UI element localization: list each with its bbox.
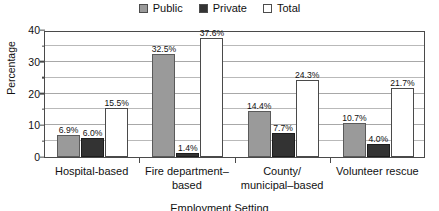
- legend-swatch-private-icon: [199, 4, 208, 13]
- bar-total: 21.7%: [391, 88, 414, 157]
- bar-chart: Public Private Total Percentage 01020304…: [0, 0, 439, 211]
- chart-legend: Public Private Total: [0, 3, 439, 14]
- bar-value-label: 1.4%: [178, 144, 198, 153]
- legend-label-total: Total: [277, 3, 300, 14]
- bar-value-label: 6.9%: [59, 126, 79, 135]
- legend-swatch-total-icon: [263, 4, 272, 13]
- legend-swatch-public-icon: [139, 4, 148, 13]
- bar-public: 10.7%: [343, 123, 366, 157]
- plot-area: 010203040 6.9%6.0%15.5%32.5%1.4%37.6%14.…: [44, 31, 425, 158]
- bar-total: 37.6%: [200, 38, 223, 157]
- bar-value-label: 32.5%: [152, 45, 176, 54]
- bars-layer: 6.9%6.0%15.5%32.5%1.4%37.6%14.4%7.7%24.3…: [45, 32, 424, 157]
- y-tick-mark: [40, 29, 45, 30]
- legend-item-total: Total: [263, 3, 300, 14]
- legend-label-private: Private: [213, 3, 247, 14]
- x-axis-title: Employment Setting: [0, 202, 439, 211]
- x-tick-mark: [139, 158, 140, 163]
- legend-item-public: Public: [139, 3, 183, 14]
- bar-value-label: 14.4%: [247, 102, 271, 111]
- x-axis-category-label: County/municipal–based: [235, 165, 330, 192]
- bar-value-label: 15.5%: [104, 99, 128, 108]
- x-axis-category-label-line: Hospital-based: [44, 165, 139, 179]
- x-tick-mark: [330, 158, 331, 163]
- bar-private: 4.0%: [367, 144, 390, 157]
- bar-private: 6.0%: [81, 138, 104, 157]
- x-axis-category-label-line: County/: [235, 165, 330, 179]
- bar-private: 1.4%: [176, 153, 199, 157]
- y-tick-label: 40: [28, 24, 40, 36]
- bar-value-label: 24.3%: [295, 71, 319, 80]
- y-tick-label: 30: [28, 56, 40, 68]
- x-axis-category-label: Fire department–based: [139, 165, 234, 192]
- x-axis-category-label: Volunteer rescue: [330, 165, 425, 179]
- bar-value-label: 7.7%: [273, 124, 293, 133]
- x-tick-mark: [235, 158, 236, 163]
- y-axis-title: Percentage: [5, 23, 17, 113]
- bar-public: 6.9%: [57, 135, 80, 157]
- bar-private: 7.7%: [272, 133, 295, 157]
- bar-value-label: 21.7%: [390, 79, 414, 88]
- bar-total: 15.5%: [105, 108, 128, 157]
- bar-value-label: 37.6%: [200, 29, 224, 38]
- legend-label-public: Public: [153, 3, 183, 14]
- bar-public: 32.5%: [152, 54, 175, 157]
- x-axis-category-label: Hospital-based: [44, 165, 139, 179]
- bar-value-label: 4.0%: [369, 135, 389, 144]
- x-axis-category-label-line: Volunteer rescue: [330, 165, 425, 179]
- legend-item-private: Private: [199, 3, 247, 14]
- bar-value-label: 10.7%: [342, 114, 366, 123]
- y-tick-label: 10: [28, 119, 40, 131]
- bar-value-label: 6.0%: [83, 129, 103, 138]
- bar-public: 14.4%: [248, 111, 271, 157]
- y-tick-label: 20: [28, 88, 40, 100]
- x-axis-category-label-line: based: [139, 179, 234, 193]
- x-axis-category-label-line: Fire department–: [139, 165, 234, 179]
- x-axis-category-labels: Hospital-basedFire department–basedCount…: [44, 165, 425, 195]
- x-axis-category-label-line: municipal–based: [235, 179, 330, 193]
- bar-total: 24.3%: [296, 80, 319, 157]
